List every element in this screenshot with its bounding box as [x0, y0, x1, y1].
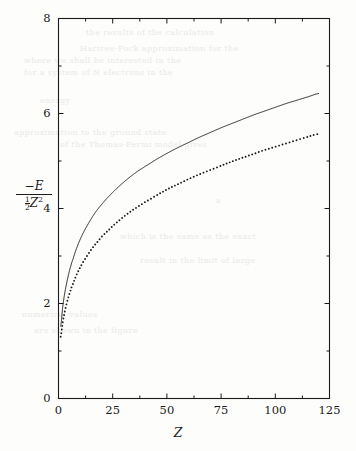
y-axis-numerator: −E: [12, 180, 56, 194]
y-tick-label: 2: [13, 296, 51, 310]
x-tick-label: 50: [147, 403, 187, 417]
data-series-layer: [60, 94, 319, 338]
axis-ticks: [59, 19, 330, 399]
plot-canvas: [0, 0, 356, 451]
y-tick-label: 0: [13, 391, 51, 405]
y-tick-label: 8: [13, 11, 51, 25]
series-solid-curve: [61, 94, 319, 327]
series-dotted-curve: [60, 133, 319, 337]
y-axis-title: −E 12Z2: [12, 180, 56, 211]
x-tick-label: 125: [310, 403, 350, 417]
x-tick-label: 75: [201, 403, 241, 417]
y-axis-denominator: 12Z2: [12, 195, 56, 211]
x-tick-label: 25: [93, 403, 133, 417]
x-axis-title: Z: [0, 425, 356, 440]
z-squared-symbol: Z2: [30, 196, 43, 210]
x-tick-label: 100: [255, 403, 295, 417]
y-tick-label: 6: [13, 106, 51, 120]
plot-frame: [59, 19, 330, 399]
x-tick-label: 0: [39, 403, 79, 417]
z-exponent: 2: [38, 195, 43, 204]
figure-page: the results of the calculationHartree-Fo…: [0, 0, 356, 451]
z-symbol: Z: [30, 196, 38, 210]
